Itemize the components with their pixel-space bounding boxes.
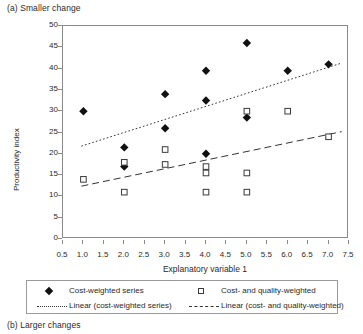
data-point-filled-diamond	[79, 107, 87, 115]
legend-label: Cost-weighted series	[69, 286, 144, 295]
x-axis-tick-mark	[123, 240, 124, 244]
data-point-filled-diamond	[243, 39, 251, 47]
x-axis-title: Explanatory variable 1	[62, 264, 348, 274]
x-axis-tick-mark	[287, 240, 288, 244]
data-point-filled-diamond	[202, 96, 210, 104]
data-point-open-square	[326, 134, 332, 140]
x-axis-tick-mark	[164, 240, 165, 244]
data-point-filled-diamond	[202, 150, 210, 158]
data-point-filled-diamond	[161, 124, 169, 132]
data-point-open-square	[121, 160, 127, 166]
filled-diamond-icon	[35, 285, 69, 297]
data-point-open-square	[285, 108, 291, 114]
x-axis-tick-mark	[185, 240, 186, 244]
x-axis-tick-label: 7.5	[335, 250, 361, 259]
x-axis-tick-mark	[307, 240, 308, 244]
data-point-filled-diamond	[324, 60, 332, 68]
figure-caption-a: (a) Smaller change	[7, 3, 81, 13]
data-point-open-square	[203, 170, 209, 176]
x-axis-tick-mark	[103, 240, 104, 244]
chart-scatter-plot: Productivity index 05101520253035404550 …	[0, 16, 363, 276]
chart-legend: Cost-weighted series Cost- and quality-w…	[26, 280, 338, 314]
x-axis-tick-mark	[348, 240, 349, 244]
data-point-filled-diamond	[284, 67, 292, 75]
data-point-open-square	[244, 170, 250, 176]
x-axis-tick-mark	[246, 240, 247, 244]
data-point-open-square	[162, 147, 168, 153]
x-axis-tick-labels: 0.51.01.52.02.53.03.54.04.55.05.56.06.57…	[0, 240, 363, 280]
legend-row-2: Linear (cost-weighted series) Linear (co…	[27, 298, 337, 313]
x-axis-tick-mark	[205, 240, 206, 244]
plot-graphics	[63, 26, 349, 239]
data-point-open-square	[162, 162, 168, 168]
plot-area	[62, 25, 348, 238]
y-axis-tick-marks	[0, 16, 62, 256]
data-point-open-square	[203, 164, 209, 170]
figure-caption-b: (b) Larger changes	[7, 320, 81, 330]
x-axis-tick-mark	[328, 240, 329, 244]
data-point-open-square	[121, 189, 127, 195]
data-point-open-square	[81, 177, 87, 183]
data-point-filled-diamond	[202, 67, 210, 75]
trendline-dashed	[81, 132, 341, 187]
x-axis-tick-mark	[225, 240, 226, 244]
x-axis-tick-mark	[266, 240, 267, 244]
x-axis-tick-mark	[62, 240, 63, 244]
x-axis-tick-mark	[82, 240, 83, 244]
data-point-filled-diamond	[120, 143, 128, 151]
data-point-filled-diamond	[161, 90, 169, 98]
trendline-dotted	[81, 63, 341, 146]
legend-item-cost-weighted-series: Cost-weighted series	[35, 283, 144, 298]
legend-item-cost-and-quality-weighted: Cost- and quality-weighted	[187, 283, 316, 298]
legend-item-linear-cost-weighted: Linear (cost-weighted series)	[35, 298, 172, 313]
dotted-line-icon	[35, 300, 69, 312]
data-point-filled-diamond	[243, 113, 251, 121]
data-point-open-square	[244, 108, 250, 114]
data-point-open-square	[244, 189, 250, 195]
y-axis-tick-mark	[58, 238, 62, 239]
x-axis-tick-mark	[144, 240, 145, 244]
legend-row-1: Cost-weighted series Cost- and quality-w…	[27, 283, 337, 298]
legend-label: Linear (cost- and quality-weighted)	[221, 301, 344, 310]
x-axis: 0.51.01.52.02.53.03.54.04.55.05.56.06.57…	[0, 240, 363, 280]
open-square-icon	[187, 285, 221, 297]
dashed-line-icon	[187, 300, 221, 312]
legend-label: Linear (cost-weighted series)	[69, 301, 172, 310]
data-point-open-square	[203, 189, 209, 195]
legend-item-linear-cost-and-quality-weighted: Linear (cost- and quality-weighted)	[187, 298, 344, 313]
legend-label: Cost- and quality-weighted	[221, 286, 316, 295]
